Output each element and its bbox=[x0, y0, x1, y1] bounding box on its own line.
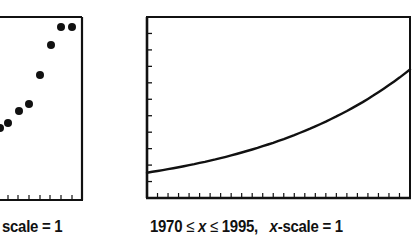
left-chart-data-points bbox=[0, 23, 76, 132]
scale-variable: x bbox=[270, 217, 278, 236]
charts-canvas bbox=[0, 0, 413, 244]
data-point bbox=[47, 41, 55, 49]
le-symbol-1: ≤ bbox=[186, 217, 194, 236]
right-line-chart bbox=[146, 17, 411, 198]
data-point bbox=[57, 23, 65, 31]
right-chart-curve bbox=[147, 70, 410, 173]
data-point bbox=[25, 100, 33, 108]
data-point bbox=[15, 107, 23, 115]
left-chart-caption: scale = 1 bbox=[2, 217, 62, 237]
data-point bbox=[68, 23, 76, 31]
data-point bbox=[0, 124, 4, 132]
left-caption-text: scale = 1 bbox=[2, 217, 62, 236]
data-point bbox=[36, 71, 44, 79]
left-scatter-chart bbox=[0, 17, 83, 200]
range-variable: x bbox=[198, 217, 206, 236]
range-high: 1995, bbox=[222, 217, 258, 236]
right-chart-frame bbox=[147, 17, 410, 198]
le-symbol-2: ≤ bbox=[210, 217, 218, 236]
data-point bbox=[4, 119, 12, 127]
range-low: 1970 bbox=[150, 217, 182, 236]
right-chart-caption: 1970 ≤ x ≤ 1995, x-scale = 1 bbox=[150, 217, 343, 237]
scale-text: -scale = 1 bbox=[278, 217, 343, 236]
